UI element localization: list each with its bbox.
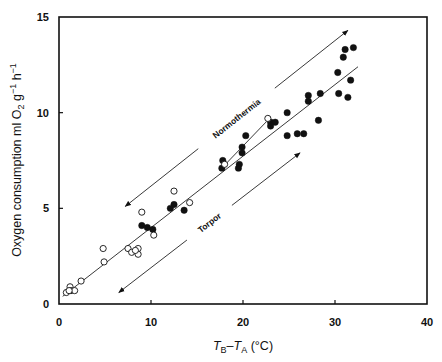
filled-point [181,207,187,213]
filled-point [342,46,348,52]
open-point [139,209,145,215]
open-point [171,188,177,194]
y-axis-title: Oxygen consumption ml O2 g−1 h−1 [8,63,26,257]
x-tick-label: 10 [145,316,157,328]
open-point [187,199,193,205]
filled-point [335,90,341,96]
open-point [78,278,84,284]
arrow-line [232,153,300,206]
filled-point [235,165,241,171]
filled-point [150,226,156,232]
x-axis-title: TB–TA (°C) [213,339,273,355]
filled-point [284,132,290,138]
filled-point [350,44,356,50]
y-tick-label: 15 [37,11,49,23]
filled-point [345,94,351,100]
open-point [100,245,106,251]
filled-point [239,144,245,150]
open-point [66,288,72,294]
arrow-line [275,30,348,88]
filled-point [340,54,346,60]
open-point [265,115,271,121]
x-tick-label: 20 [237,316,249,328]
filled-point [267,123,273,129]
arrow-line [125,149,198,207]
filled-point [305,98,311,104]
filled-point [167,205,173,211]
annotation-label: Torpor [196,210,224,235]
x-tick-label: 30 [329,316,341,328]
filled-point [294,131,300,137]
filled-point [243,132,249,138]
filled-point [239,150,245,156]
y-tick-label: 10 [37,107,49,119]
open-point [151,232,157,238]
annotation-arrows: NormothermiaTorpor [119,30,348,292]
filled-point [305,92,311,98]
filled-point [335,69,341,75]
y-tick-label: 0 [43,298,49,310]
x-tick-label: 0 [56,316,62,328]
x-tick-label: 40 [421,316,433,328]
y-tick-label: 5 [43,202,49,214]
open-point [222,161,228,167]
filled-point [315,117,321,123]
filled-point [347,77,353,83]
filled-point [284,109,290,115]
filled-point [301,131,307,137]
plot-frame [59,17,427,304]
data-points [63,44,356,295]
open-point [101,259,107,265]
open-point [132,247,138,253]
scatter-chart: 010203040 051015 NormothermiaTorpor TB–T… [0,0,442,362]
filled-point [317,90,323,96]
